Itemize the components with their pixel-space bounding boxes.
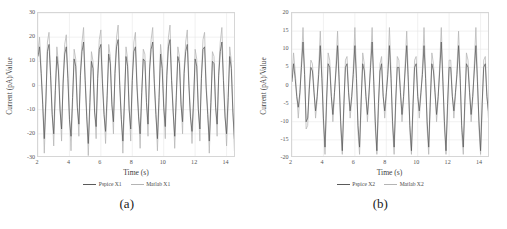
y-tick-label: 30 [29, 9, 35, 15]
y-tick-label: 10 [29, 57, 35, 63]
x-tick-label: 14 [219, 159, 233, 165]
panel-caption-b: (b) [254, 196, 507, 212]
y-tick-label: 0 [32, 82, 35, 88]
legend-entry: Pspice X2 [337, 181, 375, 188]
panel-caption-a: (a) [0, 196, 254, 212]
y-tick-label: -10 [27, 106, 35, 112]
x-tick-label: 12 [187, 159, 201, 165]
y-tick-label: 10 [282, 45, 288, 51]
x-axis-label-b: Time (s) [291, 168, 489, 177]
x-tick-label: 2 [284, 159, 298, 165]
y-axis-label-b: Current (pA)/Value [258, 18, 270, 154]
y-tick-label: 0 [285, 82, 288, 88]
legend-line-swatch [337, 184, 350, 185]
y-tick-label: 15 [282, 27, 288, 33]
figure-comparison-pspice-matlab: Current (pA)/Value 3020100-10-20-30 2468… [0, 0, 507, 229]
y-tick-label: -5 [283, 100, 288, 106]
legend-label: Pspice X2 [352, 181, 375, 188]
legend-entry: Matlab X2 [384, 181, 424, 188]
x-tick-label: 10 [409, 159, 423, 165]
x-axis-label-a: Time (s) [37, 168, 235, 177]
x-tick-label: 14 [472, 159, 486, 165]
legend-label: Pspice X1 [99, 181, 122, 188]
y-axis-label-a: Current (pA)/Value [4, 18, 16, 154]
panel-a: Current (pA)/Value 3020100-10-20-30 2468… [0, 0, 254, 229]
y-tick-labels-a: 3020100-10-20-30 [23, 12, 35, 157]
x-tick-label: 4 [61, 159, 75, 165]
x-tick-label: 2 [30, 159, 44, 165]
y-tick-label: 20 [282, 9, 288, 15]
legend-label: Matlab X1 [146, 181, 170, 188]
x-tick-label: 8 [378, 159, 392, 165]
x-tick-label: 8 [124, 159, 138, 165]
legend-line-swatch [83, 184, 96, 185]
y-tick-label: 20 [29, 33, 35, 39]
legend-line-swatch [384, 184, 397, 185]
legend-label: Matlab X2 [400, 181, 424, 188]
x-tick-label: 12 [441, 159, 455, 165]
legend-entry: Pspice X1 [83, 181, 121, 188]
y-tick-label: -20 [27, 130, 35, 136]
legend-b: Pspice X2Matlab X2 [254, 181, 507, 188]
y-tick-label: -10 [280, 118, 288, 124]
legend-line-swatch [131, 184, 144, 185]
plot-area-b [291, 12, 489, 157]
panel-b: Current (pA)/Value 20151050-5-10-15-20 2… [254, 0, 507, 229]
x-tick-label: 4 [315, 159, 329, 165]
x-tick-label: 6 [346, 159, 360, 165]
x-tick-label: 10 [156, 159, 170, 165]
plot-area-a [37, 12, 235, 157]
y-tick-label: -15 [280, 136, 288, 142]
legend-entry: Matlab X1 [131, 181, 171, 188]
x-tick-label: 6 [93, 159, 107, 165]
y-tick-label: 5 [285, 63, 288, 69]
y-tick-labels-b: 20151050-5-10-15-20 [277, 12, 289, 157]
legend-a: Pspice X1Matlab X1 [0, 181, 254, 188]
